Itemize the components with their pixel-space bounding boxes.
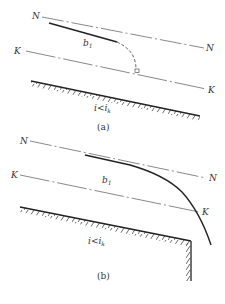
critical-depth-label-right-a: K — [207, 85, 216, 95]
channel-bed-a — [31, 81, 200, 116]
critical-depth-label-left-a: K — [13, 46, 22, 56]
normal-depth-label-right-a: N — [205, 43, 215, 53]
profile-label-b: b1 — [102, 175, 112, 186]
critical-depth-label-right-b: K — [201, 207, 210, 217]
normal-depth-line-a — [42, 17, 204, 48]
profile-curve-dashed-a — [117, 42, 136, 69]
panel-caption-b: (b) — [97, 271, 110, 281]
channel-bed-b — [20, 207, 191, 241]
normal-depth-label-left-b: N — [19, 136, 29, 146]
profile-curve-b — [85, 155, 211, 245]
slope-condition-b: i<ik — [88, 236, 105, 247]
slope-condition-a: i<ik — [94, 103, 111, 114]
right-angle-marker-a — [135, 69, 139, 73]
drop-wall-hatch-b — [185, 243, 191, 281]
critical-depth-label-left-b: K — [10, 170, 19, 180]
profile-label-a: b1 — [83, 38, 93, 49]
panel-a: N N K K b1 i<ik (a) — [13, 11, 216, 132]
panel-caption-a: (a) — [97, 122, 109, 132]
critical-depth-line-a — [26, 51, 206, 89]
normal-depth-label-left-a: N — [31, 11, 41, 21]
panel-b: N N K K b1 i<ik (b) — [10, 136, 218, 281]
normal-depth-line-b — [30, 141, 206, 178]
water-surface-profile-diagram: N N K K b1 i<ik (a) N N K K b1 — [0, 0, 225, 304]
normal-depth-label-right-b: N — [208, 173, 218, 183]
